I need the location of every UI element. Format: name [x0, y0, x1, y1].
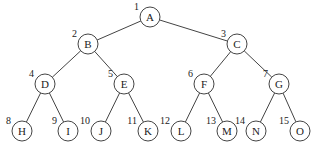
node-index-label: 15	[279, 115, 289, 126]
tree-nodes: A1B2C3D4E5F6G7H8I9J10K11L12M13N14O15	[6, 1, 310, 141]
tree-node-a: A1	[134, 1, 160, 27]
node-index-label: 11	[127, 115, 137, 126]
edge-a-c	[160, 20, 228, 41]
node-label: C	[233, 38, 240, 50]
tree-node-f: F6	[188, 68, 214, 94]
node-label: B	[84, 38, 91, 50]
edge-a-b	[97, 21, 141, 40]
tree-node-d: D4	[29, 68, 55, 94]
node-index-label: 13	[206, 115, 216, 126]
tree-node-n: N14	[235, 115, 266, 141]
node-label: D	[41, 78, 49, 90]
edge-b-d	[52, 51, 80, 77]
node-label: M	[222, 125, 232, 137]
node-index-label: 6	[188, 68, 193, 79]
edge-e-j	[105, 93, 119, 122]
node-label: E	[121, 78, 128, 90]
node-index-label: 14	[235, 115, 245, 126]
node-index-label: 4	[29, 68, 34, 79]
tree-node-j: J10	[80, 115, 111, 141]
node-index-label: 8	[6, 115, 11, 126]
node-index-label: 2	[72, 28, 77, 39]
node-label: N	[252, 125, 260, 137]
node-label: F	[201, 78, 207, 90]
node-index-label: 1	[134, 1, 139, 12]
tree-node-k: K11	[127, 115, 158, 141]
tree-node-g: G7	[263, 68, 289, 94]
node-label: A	[146, 11, 154, 23]
node-label: H	[18, 125, 26, 137]
node-label: K	[144, 125, 152, 137]
node-index-label: 9	[52, 115, 57, 126]
binary-tree-diagram: A1B2C3D4E5F6G7H8I9J10K11L12M13N14O15	[0, 0, 315, 151]
edge-c-f	[210, 52, 230, 77]
node-label: G	[275, 78, 283, 90]
node-index-label: 3	[221, 28, 226, 39]
node-label: O	[296, 125, 304, 137]
tree-node-c: C3	[221, 28, 247, 54]
edge-g-n	[260, 93, 274, 122]
tree-node-b: B2	[72, 28, 98, 54]
tree-node-e: E5	[108, 68, 134, 94]
node-index-label: 7	[263, 68, 268, 79]
tree-edges	[26, 20, 296, 122]
node-label: I	[66, 125, 70, 137]
edge-d-h	[26, 93, 40, 122]
tree-node-l: L12	[160, 115, 191, 141]
edge-b-e	[95, 51, 118, 76]
node-index-label: 12	[160, 115, 170, 126]
node-index-label: 10	[80, 115, 90, 126]
node-label: J	[99, 125, 104, 137]
node-index-label: 5	[108, 68, 113, 79]
edge-f-l	[185, 93, 199, 122]
tree-node-i: I9	[52, 115, 78, 141]
node-label: L	[178, 125, 185, 137]
